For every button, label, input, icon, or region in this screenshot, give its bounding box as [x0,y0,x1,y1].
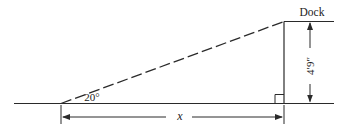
base-dimension: x [61,105,284,124]
base-label-x: x [176,109,183,123]
angle-label: 20° [84,91,99,103]
right-angle-marker [275,95,284,104]
dock-label: Dock [300,6,325,18]
height-label: 4′9″ [304,57,316,75]
height-dimension: 4′9″ [304,23,316,102]
dock-ramp-diagram: 4′9″ x 20° Dock [0,0,350,132]
